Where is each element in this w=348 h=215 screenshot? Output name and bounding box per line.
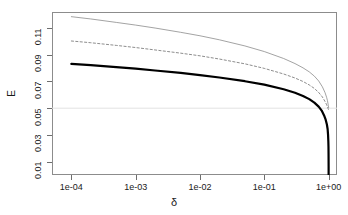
x-tick-mark: [136, 175, 137, 180]
x-tick-label: 1e+00: [316, 183, 341, 192]
x-tick-mark: [200, 175, 201, 180]
y-tick-mark: [47, 28, 52, 29]
y-tick-label: 0.05: [35, 108, 44, 126]
x-tick-label: 1e-03: [124, 183, 147, 192]
y-axis-title: E: [6, 90, 17, 97]
x-tick-mark: [329, 175, 330, 180]
chart-container: 0.01 0.03 0.05 0.07 0.09 0.11 1e-04 1e-0…: [0, 0, 348, 215]
y-tick-label: 0.11: [35, 28, 44, 45]
x-tick-mark: [71, 175, 72, 180]
y-tick-label: 0.01: [35, 162, 44, 180]
x-axis-title: δ: [0, 196, 348, 208]
y-tick-label: 0.09: [35, 55, 44, 73]
plot-canvas: [52, 12, 337, 175]
series-line-upper-thin-gray: [71, 17, 328, 108]
x-tick-label: 1e-04: [60, 183, 83, 192]
x-tick-label: 1e-01: [253, 183, 276, 192]
y-tick-mark: [47, 55, 52, 56]
y-tick-label: 0.03: [35, 135, 44, 153]
series-line-lower-thick-black: [71, 64, 328, 175]
y-tick-mark: [47, 135, 52, 136]
y-tick-label: 0.07: [35, 81, 44, 99]
x-tick-label: 1e-02: [188, 183, 211, 192]
x-tick-mark: [264, 175, 265, 180]
y-tick-mark: [47, 108, 52, 109]
y-tick-mark: [47, 162, 52, 163]
y-tick-mark: [47, 81, 52, 82]
